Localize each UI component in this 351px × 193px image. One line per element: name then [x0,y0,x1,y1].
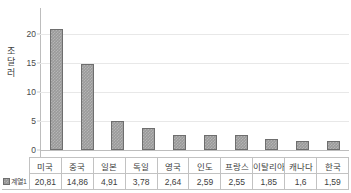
table-corner-cell [2,158,30,174]
bar-column-2 [72,8,103,158]
tick-mark-10 [37,91,40,92]
table-category-cell-10: 한국 [317,158,349,174]
table-value-cell-10: 1,59 [317,174,349,190]
table-category-cell-7: 프랑스 [221,158,253,174]
bar-column-7 [226,8,257,158]
table-category-cell-1: 미국 [30,158,62,174]
tick-mark-0 [37,150,40,151]
bar-일본[interactable] [111,121,124,150]
bar-인도[interactable] [204,135,217,150]
bar-column-5 [164,8,195,158]
bar-캐나다[interactable] [296,141,309,150]
data-table: 미국중국일본독일영국인도프랑스이탈리아캐나다한국 계열1 20,8114,864… [2,157,349,190]
bar-chart-with-data-table: 조 달 러 05101520 미국중국일본독일영국인도프랑스이탈리아캐나다한국 … [0,0,351,193]
table-value-cell-4: 3,78 [125,174,157,190]
table-value-cell-5: 2,64 [157,174,189,190]
tick-mark-5 [37,120,40,121]
legend-series-label: 계열1 [11,178,27,185]
bar-영국[interactable] [173,135,186,150]
legend-series-cell: 계열1 [2,174,30,190]
bar-column-6 [195,8,226,158]
bar-미국[interactable] [50,29,63,150]
bar-프랑스[interactable] [235,135,248,150]
plot-area: 05101520 [0,8,351,158]
table-value-cell-6: 2,59 [189,174,221,190]
y-axis-label-20: 20 [14,29,36,39]
table-category-cell-5: 영국 [157,158,189,174]
y-axis-label-10: 10 [14,87,36,97]
table-category-cell-6: 인도 [189,158,221,174]
table-row-values: 계열1 20,8114,864,913,782,642,592,551,851,… [2,174,349,190]
bar-column-9 [287,8,318,158]
table-value-cell-8: 1,85 [253,174,285,190]
table-row-categories: 미국중국일본독일영국인도프랑스이탈리아캐나다한국 [2,158,349,174]
table-category-cell-9: 캐나다 [285,158,317,174]
bar-이탈리아[interactable] [265,139,278,150]
table-value-cell-9: 1,6 [285,174,317,190]
bar-한국[interactable] [327,141,340,150]
bar-column-3 [103,8,134,158]
bar-column-8 [257,8,288,158]
y-axis-label-15: 15 [14,58,36,68]
bar-독일[interactable] [142,128,155,150]
table-category-cell-3: 일본 [93,158,125,174]
table-category-cell-4: 독일 [125,158,157,174]
bar-column-1 [41,8,72,158]
legend-swatch-icon [3,178,10,185]
table-category-cell-8: 이탈리아 [253,158,285,174]
table-category-cell-2: 중국 [61,158,93,174]
bar-중국[interactable] [81,64,94,150]
tick-mark-15 [37,62,40,63]
table-value-cell-1: 20,81 [30,174,62,190]
bar-series [41,8,349,158]
bar-column-4 [133,8,164,158]
y-axis-label-5: 5 [14,116,36,126]
bar-column-10 [318,8,349,158]
tick-mark-20 [37,33,40,34]
table-value-cell-7: 2,55 [221,174,253,190]
table-value-cell-3: 4,91 [93,174,125,190]
table-value-cell-2: 14,86 [61,174,93,190]
y-axis-label-0: 0 [14,145,36,155]
